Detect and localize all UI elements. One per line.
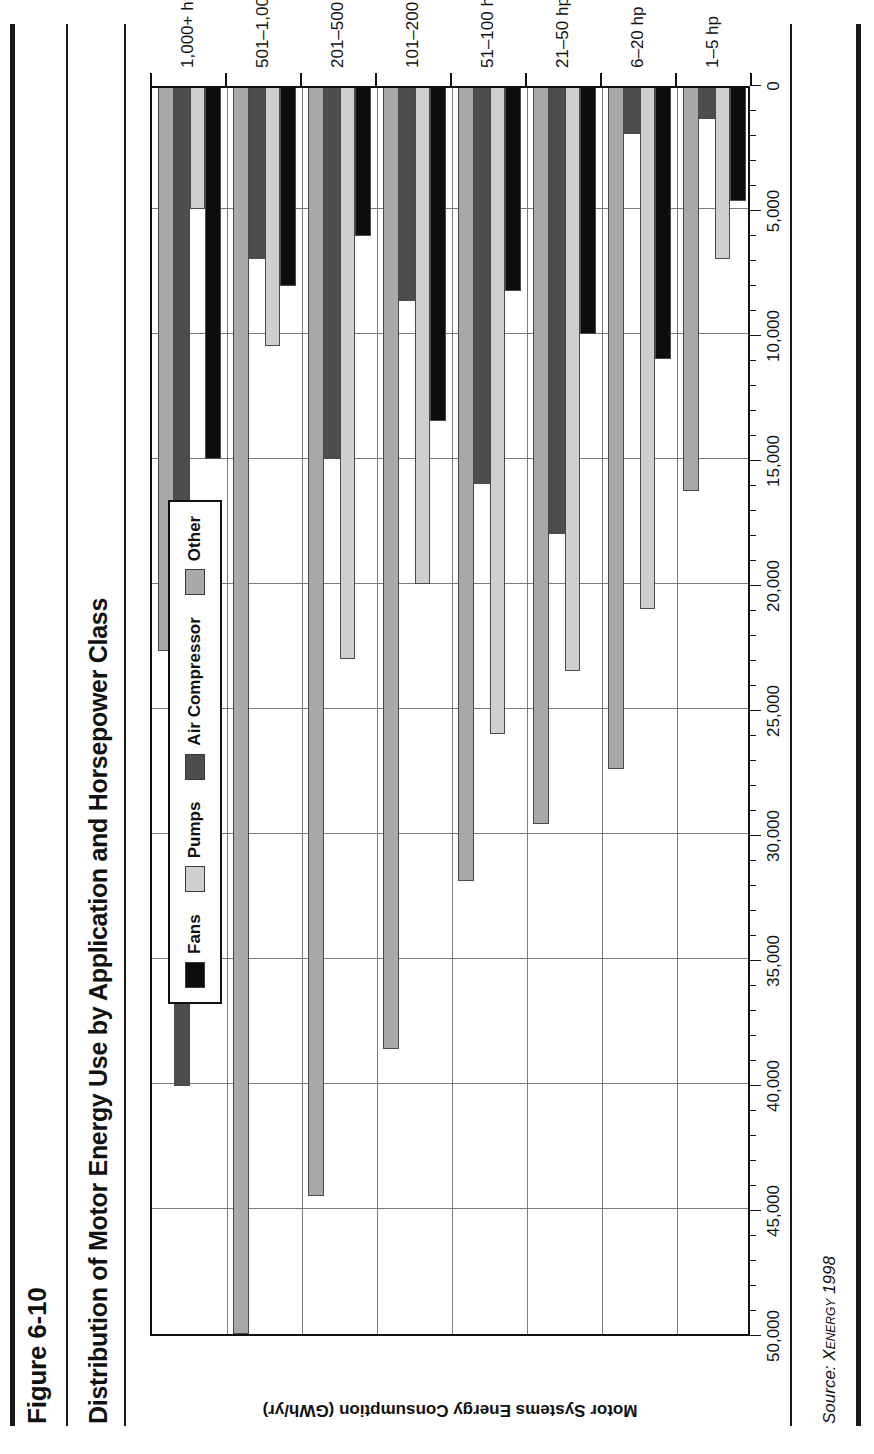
value-tick-minor: [750, 1135, 756, 1136]
category-tick: [750, 73, 752, 86]
figure-board: Figure 6-10 Distribution of Motor Energy…: [0, 0, 874, 1454]
value-tick-minor: [750, 1060, 756, 1061]
value-tick-minor: [750, 410, 756, 411]
bar-other: [233, 86, 249, 1334]
legend-item-fans[interactable]: Fans: [185, 914, 205, 988]
category-separator: [677, 88, 678, 1334]
bar-fans: [355, 86, 371, 237]
legend-item-pumps[interactable]: Pumps: [185, 802, 205, 893]
value-tick-major: [750, 585, 761, 586]
bar-air-compressor: [549, 86, 565, 534]
bar-air-compressor: [474, 86, 490, 484]
bar-other: [533, 86, 549, 824]
header-rule-middle: [66, 24, 68, 1426]
category-label: 101–200 hp: [403, 0, 423, 68]
footer-rule-bottom: [856, 24, 861, 1426]
value-tick-minor: [750, 360, 756, 361]
figure-label: Figure 6-10: [22, 1287, 53, 1424]
bar-air-compressor: [249, 86, 265, 259]
legend-swatch-icon: [185, 866, 205, 892]
value-tick-minor: [750, 935, 756, 936]
bar-fans: [505, 86, 521, 292]
bar-fans: [655, 86, 671, 359]
bar-pumps: [340, 86, 356, 659]
category-label: 1,000+ hp: [178, 0, 198, 68]
bar-pumps: [640, 86, 656, 609]
value-tick-label: 50,000: [764, 1310, 784, 1362]
value-tick-minor: [750, 1260, 756, 1261]
plot-outer: FansPumpsAir CompressorOther: [150, 86, 750, 1336]
value-tick-label: 25,000: [764, 685, 784, 737]
value-tick-major: [750, 210, 761, 211]
value-tick-minor: [750, 785, 756, 786]
source-note: Source: Xenergy 1998: [820, 1256, 840, 1424]
legend-label: Air Compressor: [185, 617, 205, 745]
value-tick-minor: [750, 1235, 756, 1236]
category-tick: [600, 73, 602, 86]
value-tick-label: 5,000: [764, 190, 784, 233]
value-tick-minor: [750, 885, 756, 886]
value-tick-minor: [750, 1285, 756, 1286]
value-tick-minor: [750, 635, 756, 636]
value-tick-minor: [750, 285, 756, 286]
category-tick: [225, 73, 227, 86]
category-separator: [602, 88, 603, 1334]
value-tick-label: 35,000: [764, 935, 784, 987]
category-label: 6–20 hp: [628, 7, 648, 68]
legend-label: Other: [185, 516, 205, 561]
bar-pumps: [190, 86, 206, 209]
category-label: 201–500 hp: [328, 0, 348, 68]
value-tick-major: [750, 460, 761, 461]
value-tick-minor: [750, 1310, 756, 1311]
bar-pumps: [265, 86, 281, 347]
value-tick-minor: [750, 810, 756, 811]
bar-pumps: [415, 86, 431, 584]
value-tick-label: 0: [764, 81, 784, 90]
header-rule-top: [10, 24, 15, 1426]
bar-pumps: [565, 86, 581, 672]
bar-fans: [430, 86, 446, 422]
category-tick: [300, 73, 302, 86]
source-name: Xenergy: [820, 1299, 839, 1361]
value-tick-major: [750, 1085, 761, 1086]
value-tick-minor: [750, 1110, 756, 1111]
bar-fans: [580, 86, 596, 334]
legend-label: Fans: [185, 914, 205, 954]
category-separator: [302, 88, 303, 1334]
value-tick-minor: [750, 1035, 756, 1036]
bar-other: [308, 86, 324, 1197]
legend-swatch-icon: [185, 569, 205, 595]
bar-other: [458, 86, 474, 882]
figure-title: Distribution of Motor Energy Use by Appl…: [84, 598, 113, 1424]
source-year: 1998: [820, 1256, 839, 1294]
value-axis-title: Motor Systems Energy Consumption (GWh/yr…: [240, 1400, 660, 1420]
legend-item-other[interactable]: Other: [185, 516, 205, 595]
category-tick: [450, 73, 452, 86]
legend-item-air-compressor[interactable]: Air Compressor: [185, 617, 205, 779]
bar-air-compressor: [699, 86, 715, 119]
category-tick: [150, 73, 152, 86]
bar-fans: [280, 86, 296, 287]
value-tick-minor: [750, 1160, 756, 1161]
bar-other: [383, 86, 399, 1049]
category-separator: [377, 88, 378, 1334]
category-axis: 1–5 hp6–20 hp21–50 hp51–100 hp101–200 hp…: [150, 2, 750, 86]
value-tick-minor: [750, 535, 756, 536]
category-separator: [227, 88, 228, 1334]
legend-swatch-icon: [185, 754, 205, 780]
value-tick-minor: [750, 135, 756, 136]
value-tick-minor: [750, 510, 756, 511]
bar-pumps: [715, 86, 731, 259]
category-separator: [452, 88, 453, 1334]
bar-air-compressor: [324, 86, 340, 459]
category-label: 501–1,000 hp: [253, 0, 273, 68]
category-tick: [525, 73, 527, 86]
plot-canvas: [150, 86, 750, 1336]
value-tick-major: [750, 1335, 761, 1336]
value-tick-minor: [750, 185, 756, 186]
figure-page: Figure 6-10 Distribution of Motor Energy…: [0, 0, 874, 1454]
value-tick-minor: [750, 860, 756, 861]
rotation-host: Figure 6-10 Distribution of Motor Energy…: [0, 0, 874, 1454]
value-tick-label: 20,000: [764, 560, 784, 612]
value-tick-major: [750, 960, 761, 961]
